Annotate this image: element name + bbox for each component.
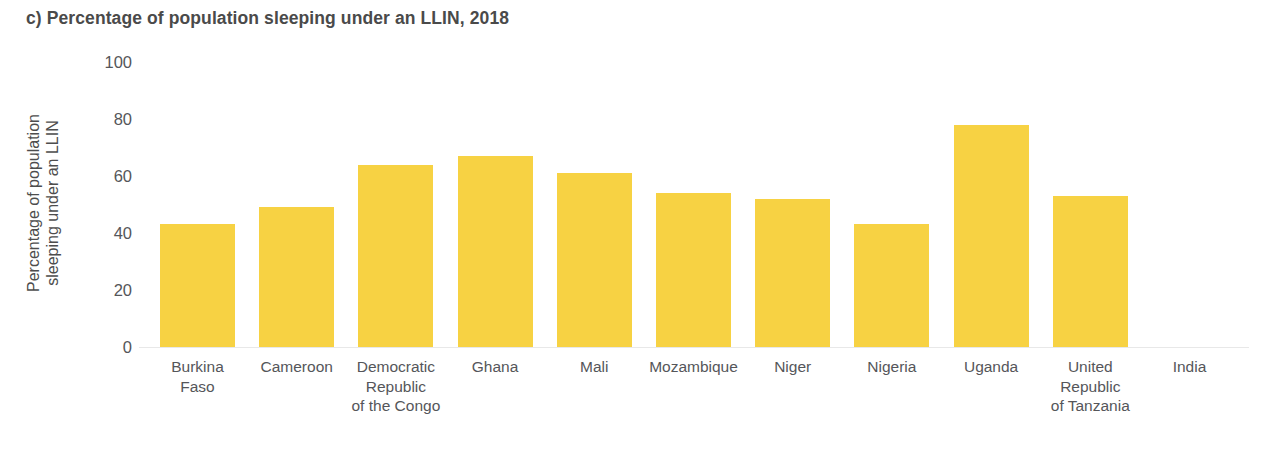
bar-slot <box>358 0 433 347</box>
bar-slot <box>259 0 334 347</box>
bar[interactable] <box>259 207 334 347</box>
bar[interactable] <box>458 156 533 347</box>
bar-slot <box>458 0 533 347</box>
y-tick-80: 80 <box>86 110 132 129</box>
bar[interactable] <box>160 224 235 347</box>
y-tick-0: 0 <box>86 338 132 357</box>
bar[interactable] <box>656 193 731 347</box>
y-axis-title: Percentage of population sleeping under … <box>24 68 62 338</box>
y-tick-60: 60 <box>86 167 132 186</box>
y-tick-20: 20 <box>86 281 132 300</box>
x-tick-label: India <box>1115 357 1265 377</box>
y-tick-100: 100 <box>86 53 132 72</box>
y-tick-40: 40 <box>86 224 132 243</box>
bar[interactable] <box>954 125 1029 347</box>
bar-slot <box>755 0 830 347</box>
x-axis-baseline <box>139 347 1249 348</box>
bar-slot <box>954 0 1029 347</box>
chart-plot-area: Percentage of population sleeping under … <box>0 0 1265 449</box>
bar[interactable] <box>358 165 433 347</box>
bar-slot <box>1053 0 1128 347</box>
bar-slot <box>1152 0 1227 347</box>
bar[interactable] <box>755 199 830 347</box>
bar[interactable] <box>1053 196 1128 347</box>
bar-slot <box>854 0 929 347</box>
bar-slot <box>557 0 632 347</box>
bar-slot <box>160 0 235 347</box>
bar[interactable] <box>557 173 632 347</box>
bar[interactable] <box>854 224 929 347</box>
bar-slot <box>656 0 731 347</box>
